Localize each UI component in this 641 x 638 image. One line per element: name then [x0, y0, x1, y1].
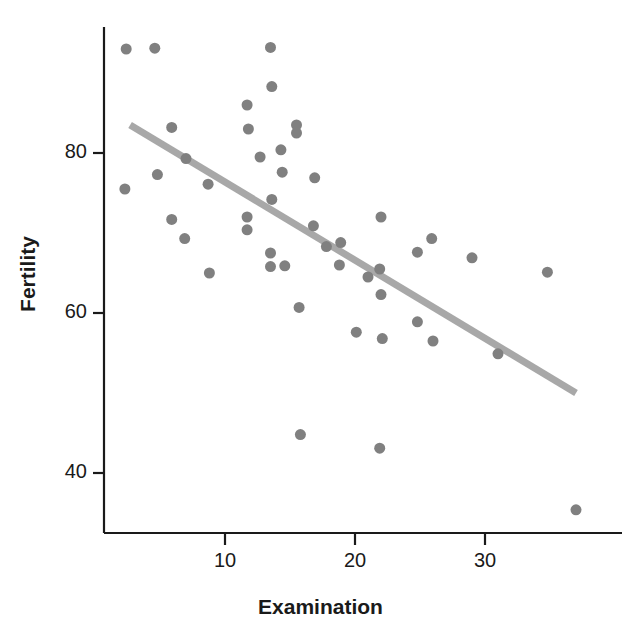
regression-line — [130, 125, 576, 393]
data-point — [255, 152, 266, 163]
scatter-plot-figure: 406080 102030 Fertility Examination — [0, 0, 641, 638]
data-point — [374, 264, 385, 275]
y-axis-ticks — [93, 153, 104, 473]
data-point — [309, 172, 320, 183]
data-point — [377, 333, 388, 344]
data-point — [266, 194, 277, 205]
data-point — [374, 443, 385, 454]
data-point — [243, 124, 254, 135]
data-point — [166, 214, 177, 225]
data-point — [265, 248, 276, 259]
data-point — [275, 144, 286, 155]
data-point — [266, 81, 277, 92]
data-point — [149, 43, 160, 54]
data-point — [542, 267, 553, 278]
y-tick-label: 80 — [41, 140, 87, 163]
x-axis-title: Examination — [0, 595, 641, 619]
data-point — [335, 237, 346, 248]
data-point — [334, 260, 345, 271]
data-point — [119, 184, 130, 195]
data-point — [363, 272, 374, 283]
data-point — [277, 167, 288, 178]
x-tick-label: 10 — [202, 549, 248, 572]
data-point — [571, 504, 582, 515]
data-point — [412, 316, 423, 327]
trend-line — [130, 125, 576, 393]
data-point — [428, 336, 439, 347]
data-point — [204, 268, 215, 279]
data-point — [321, 241, 332, 252]
data-point — [242, 224, 253, 235]
data-point — [351, 327, 362, 338]
plot-canvas — [0, 0, 641, 638]
data-point — [242, 100, 253, 111]
data-point — [308, 220, 319, 231]
data-point — [376, 289, 387, 300]
data-point — [279, 260, 290, 271]
data-point — [294, 302, 305, 313]
x-axis-ticks — [225, 533, 485, 545]
data-point — [242, 212, 253, 223]
data-point — [291, 128, 302, 139]
y-axis-title: Fertility — [16, 214, 40, 334]
data-point — [203, 179, 214, 190]
x-tick-label: 30 — [462, 549, 508, 572]
data-point — [179, 233, 190, 244]
data-point — [295, 429, 306, 440]
y-tick-label: 40 — [41, 460, 87, 483]
data-point — [152, 169, 163, 180]
data-point — [121, 44, 132, 55]
data-point — [265, 42, 276, 53]
data-point — [376, 212, 387, 223]
x-tick-label: 20 — [332, 549, 378, 572]
data-point — [166, 122, 177, 133]
data-point — [426, 233, 437, 244]
data-point — [467, 252, 478, 263]
data-point — [181, 153, 192, 164]
data-point — [265, 261, 276, 272]
data-point — [493, 348, 504, 359]
data-points — [119, 42, 581, 515]
data-point — [412, 247, 423, 258]
y-tick-label: 60 — [41, 300, 87, 323]
